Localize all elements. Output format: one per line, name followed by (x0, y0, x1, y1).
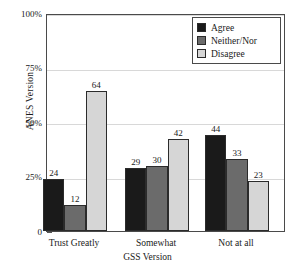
legend-item[interactable]: Agree (197, 21, 276, 34)
y-tick-label: 100% (10, 10, 42, 19)
bar (248, 181, 269, 231)
legend-item-label: Disagree (211, 49, 245, 59)
legend-item-label: Agree (211, 23, 234, 33)
bar (146, 166, 167, 231)
legend: AgreeNeither/NorDisagree (192, 17, 281, 64)
legend-swatch-icon (197, 49, 206, 58)
legend-item[interactable]: Disagree (197, 47, 276, 60)
bar-value-label: 64 (80, 81, 113, 90)
legend-swatch-icon (197, 36, 206, 45)
bar-value-label: 24 (37, 169, 70, 178)
y-tick-mark (47, 232, 52, 233)
y-tick-label: 0 (10, 228, 42, 237)
bar (43, 179, 64, 231)
bar (168, 139, 189, 231)
x-tick-label: Not at all (186, 238, 286, 249)
bar-value-label: 33 (220, 149, 253, 158)
legend-item[interactable]: Neither/Nor (197, 34, 276, 47)
bar (86, 91, 107, 231)
bar-value-label: 23 (242, 171, 275, 180)
bar (125, 168, 146, 231)
bar-value-label: 42 (162, 129, 195, 138)
y-axis-ticks: 100%75%50%25%0 (6, 0, 42, 276)
y-tick-label: 75% (10, 64, 42, 73)
legend-swatch-icon (197, 23, 206, 32)
bar (226, 159, 247, 231)
bar (64, 205, 85, 231)
legend-item-label: Neither/Nor (211, 36, 257, 46)
bar-chart-figure: ANES Version 100%75%50%25%0 241264293042… (0, 0, 295, 276)
y-tick-label: 50% (10, 119, 42, 128)
x-axis-title: GSS Version (0, 252, 295, 263)
bar-value-label: 44 (199, 125, 232, 134)
